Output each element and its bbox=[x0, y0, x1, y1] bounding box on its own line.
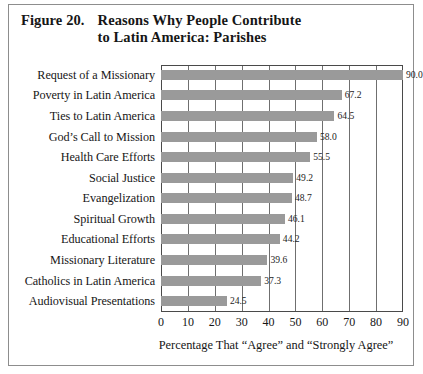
category-label: Audiovisual Presentations bbox=[21, 295, 161, 308]
figure-container: Figure 20. Reasons Why People Contribute… bbox=[8, 4, 414, 366]
bar bbox=[161, 193, 292, 203]
figure-title-line-1: Reasons Why People Contribute bbox=[98, 12, 302, 29]
x-tick-label: 40 bbox=[263, 315, 275, 329]
bar-row: Ties to Latin America64.5 bbox=[21, 107, 403, 126]
x-tick-label: 80 bbox=[370, 315, 382, 329]
category-label: Poverty in Latin America bbox=[21, 89, 161, 102]
bar-row: Spiritual Growth46.1 bbox=[21, 210, 403, 229]
bar-row: Catholics in Latin America37.3 bbox=[21, 272, 403, 291]
bar-value-label: 48.7 bbox=[292, 191, 312, 204]
bar bbox=[161, 152, 310, 162]
category-label: God’s Call to Mission bbox=[21, 131, 161, 144]
bar-value-label: 49.2 bbox=[293, 171, 313, 184]
bar-value-label: 64.5 bbox=[334, 109, 354, 122]
bar-track: 46.1 bbox=[161, 210, 403, 229]
category-label: Evangelization bbox=[21, 192, 161, 205]
category-label: Spiritual Growth bbox=[21, 213, 161, 226]
bar-value-label: 39.6 bbox=[267, 253, 287, 266]
x-axis-title: Percentage That “Agree” and “Strongly Ag… bbox=[155, 338, 397, 353]
bar-track: 39.6 bbox=[161, 251, 403, 270]
x-tick-label: 50 bbox=[289, 315, 301, 329]
bar-row: Educational Efforts44.2 bbox=[21, 230, 403, 249]
category-label: Ties to Latin America bbox=[21, 110, 161, 123]
bar bbox=[161, 296, 227, 306]
bar-row: Audiovisual Presentations24.5 bbox=[21, 292, 403, 311]
bar-rows: Request of a Missionary90.0Poverty in La… bbox=[21, 65, 403, 312]
category-label: Catholics in Latin America bbox=[21, 275, 161, 288]
bar-chart: Request of a Missionary90.0Poverty in La… bbox=[21, 59, 403, 355]
bar bbox=[161, 70, 403, 80]
bar-value-label: 90.0 bbox=[403, 68, 423, 81]
bar bbox=[161, 255, 267, 265]
bar-track: 67.2 bbox=[161, 86, 403, 105]
category-label: Social Justice bbox=[21, 172, 161, 185]
figure-number: Figure 20. bbox=[21, 12, 98, 29]
bar-value-label: 44.2 bbox=[280, 232, 300, 245]
bar-row: Request of a Missionary90.0 bbox=[21, 66, 403, 85]
x-tick-label: 60 bbox=[316, 315, 328, 329]
bar-row: Social Justice49.2 bbox=[21, 169, 403, 188]
bar-row: Missionary Literature39.6 bbox=[21, 251, 403, 270]
bar-row: Poverty in Latin America67.2 bbox=[21, 86, 403, 105]
bar-track: 37.3 bbox=[161, 272, 403, 291]
bar bbox=[161, 90, 342, 100]
bar bbox=[161, 132, 317, 142]
bar bbox=[161, 173, 293, 183]
bar bbox=[161, 276, 261, 286]
bar-track: 55.5 bbox=[161, 148, 403, 167]
bar-track: 58.0 bbox=[161, 128, 403, 147]
bar bbox=[161, 111, 334, 121]
x-tick-label: 70 bbox=[343, 315, 355, 329]
bar-row: Evangelization48.7 bbox=[21, 189, 403, 208]
bar bbox=[161, 234, 280, 244]
category-label: Health Care Efforts bbox=[21, 151, 161, 164]
bar-track: 48.7 bbox=[161, 189, 403, 208]
category-label: Educational Efforts bbox=[21, 233, 161, 246]
x-axis-ticks: 0102030405060708090 bbox=[161, 315, 403, 331]
bar bbox=[161, 214, 285, 224]
figure-title-block: Figure 20. Reasons Why People Contribute… bbox=[21, 12, 401, 46]
bar-track: 24.5 bbox=[161, 292, 403, 311]
bar-track: 49.2 bbox=[161, 169, 403, 188]
bar-row: Health Care Efforts55.5 bbox=[21, 148, 403, 167]
category-label: Missionary Literature bbox=[21, 254, 161, 267]
bar-value-label: 24.5 bbox=[227, 294, 247, 307]
bar-row: God’s Call to Mission58.0 bbox=[21, 128, 403, 147]
category-label: Request of a Missionary bbox=[21, 69, 161, 82]
x-tick-label: 0 bbox=[158, 315, 164, 329]
bar-track: 44.2 bbox=[161, 230, 403, 249]
x-tick-label: 10 bbox=[182, 315, 194, 329]
page-title: Reasons Why People Contribute to Latin A… bbox=[98, 12, 302, 46]
bar-value-label: 67.2 bbox=[342, 88, 362, 101]
bar-value-label: 46.1 bbox=[285, 212, 305, 225]
bar-track: 90.0 bbox=[161, 66, 403, 85]
bar-value-label: 58.0 bbox=[317, 130, 337, 143]
x-tick-label: 20 bbox=[209, 315, 221, 329]
x-tick-label: 90 bbox=[397, 315, 409, 329]
x-tick-label: 30 bbox=[236, 315, 248, 329]
bar-track: 64.5 bbox=[161, 107, 403, 126]
bar-value-label: 55.5 bbox=[310, 150, 330, 163]
figure-title-line-2: to Latin America: Parishes bbox=[98, 29, 302, 46]
bar-value-label: 37.3 bbox=[261, 274, 281, 287]
